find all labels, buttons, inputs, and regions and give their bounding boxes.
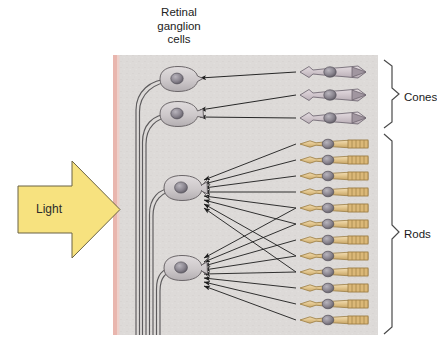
title-line-3: cells bbox=[113, 33, 245, 47]
cones-bracket bbox=[384, 60, 399, 128]
cones-label: Cones bbox=[404, 91, 437, 103]
title-line-1: Retinal bbox=[113, 6, 245, 20]
light-arrow bbox=[18, 161, 120, 258]
light-arrow-label: Light bbox=[36, 202, 62, 216]
rods-label: Rods bbox=[404, 228, 431, 240]
cone-cell bbox=[300, 66, 366, 78]
title-line-2: ganglion bbox=[113, 20, 245, 34]
rods-bracket bbox=[384, 134, 399, 334]
page-title: Retinal ganglion cells bbox=[113, 6, 245, 47]
cone-cell bbox=[300, 112, 366, 124]
cone-cells bbox=[300, 66, 366, 124]
cone-cell bbox=[300, 89, 366, 101]
